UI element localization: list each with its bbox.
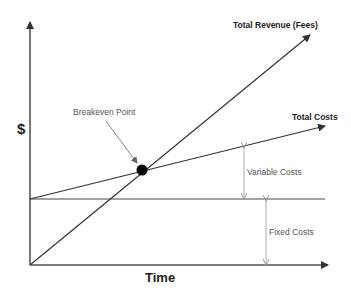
- revenue-label: Total Revenue (Fees): [233, 20, 318, 30]
- variable-costs-label: Variable Costs: [247, 167, 302, 177]
- y-axis-label: $: [17, 120, 25, 137]
- fixed-costs-label: Fixed Costs: [269, 227, 314, 237]
- total-costs-line: [30, 126, 325, 199]
- revenue-line: [30, 35, 310, 265]
- breakeven-diagram: [0, 0, 351, 301]
- x-axis-label: Time: [145, 270, 175, 285]
- total-costs-label: Total Costs: [292, 112, 338, 122]
- breakeven-label: Breakeven Point: [73, 107, 135, 117]
- breakeven-pointer: [106, 121, 137, 163]
- breakeven-point-marker: [137, 165, 148, 176]
